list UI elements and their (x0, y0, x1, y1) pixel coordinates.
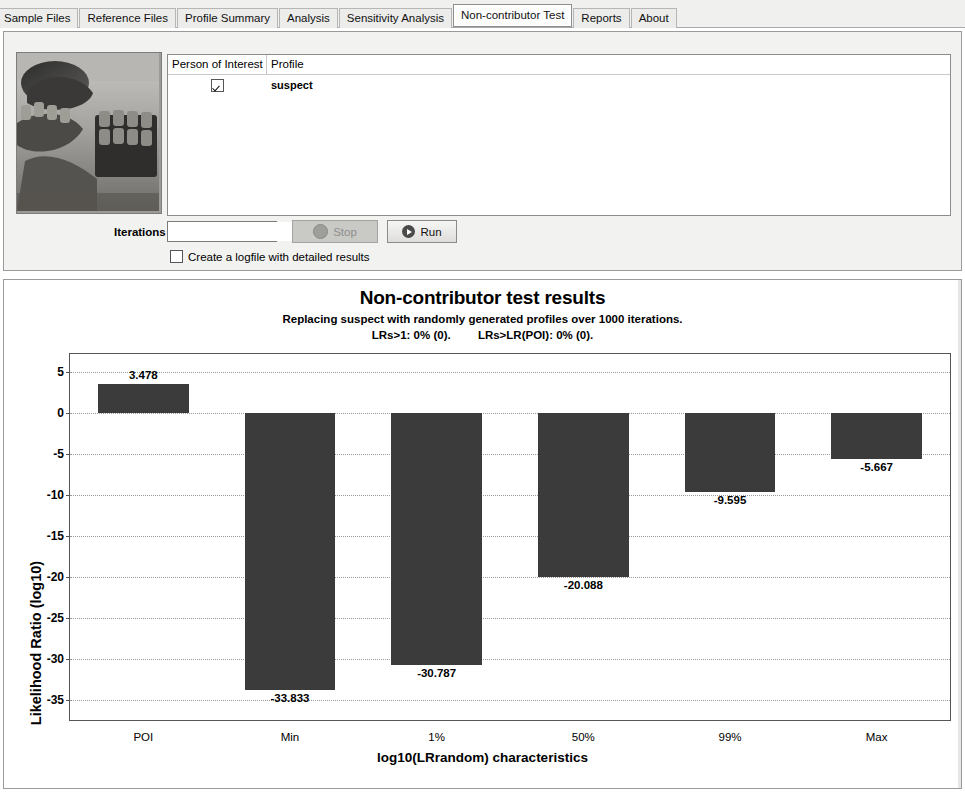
y-axis-label: Likelihood Ratio (log10) (28, 443, 44, 792)
iterations-stepper[interactable] (167, 221, 277, 242)
tab-sensitivity-analysis[interactable]: Sensitivity Analysis (339, 8, 452, 28)
chart-subtitle: Replacing suspect with randomly generate… (4, 313, 961, 325)
bar-value-label: -5.667 (801, 461, 952, 473)
y-tick-label: -25 (47, 611, 64, 625)
chart-title: Non-contributor test results (4, 287, 961, 309)
bar-50-[interactable] (538, 413, 629, 577)
bar-1-[interactable] (391, 413, 482, 665)
y-tick-label: -15 (47, 529, 64, 543)
lab-photo-svg (17, 53, 159, 211)
bar-value-label: -20.088 (508, 579, 659, 591)
bar-value-label: -9.595 (655, 494, 806, 506)
y-tick-mark (66, 536, 70, 537)
chart-panel: Non-contributor test results Replacing s… (3, 279, 962, 789)
y-tick-label: -10 (47, 488, 64, 502)
create-logfile-label: Create a logfile with detailed results (188, 251, 370, 263)
non-contributor-test-panel: Person of Interest Profile suspect Itera… (3, 31, 962, 271)
y-tick-label: 5 (57, 365, 64, 379)
table-row[interactable]: suspect (168, 75, 950, 95)
tab-reports[interactable]: Reports (573, 8, 629, 28)
chart-stats: LRs>1: 0% (0). LRs>LR(POI): 0% (0). (4, 329, 961, 341)
x-tick-label-min: Min (281, 731, 300, 743)
bar-max[interactable] (831, 413, 922, 459)
y-tick-mark (66, 454, 70, 455)
x-tick-label-1-: 1% (428, 731, 445, 743)
run-controls: Iterations Stop Run (4, 220, 961, 250)
run-button[interactable]: Run (387, 220, 457, 243)
stop-icon (313, 224, 328, 239)
tab-sample-files[interactable]: Sample Files (0, 8, 78, 28)
column-header-profile[interactable]: Profile (267, 55, 950, 74)
x-tick-label-50-: 50% (572, 731, 595, 743)
column-header-person-of-interest[interactable]: Person of Interest (168, 55, 267, 74)
y-tick-label: -30 (47, 652, 64, 666)
bar-value-label: -33.833 (215, 692, 366, 704)
play-icon (402, 225, 415, 238)
stop-button[interactable]: Stop (292, 220, 378, 243)
bar-poi[interactable] (98, 384, 189, 412)
y-tick-label: -20 (47, 570, 64, 584)
y-tick-mark (66, 577, 70, 578)
y-tick-mark (66, 618, 70, 619)
x-tick-label-max: Max (866, 731, 888, 743)
plot-area: 50-5-10-15-20-25-30-353.478POI-33.833Min… (69, 353, 951, 721)
person-of-interest-checkbox[interactable] (211, 79, 224, 92)
bar-min[interactable] (245, 413, 336, 690)
create-logfile-checkbox[interactable] (170, 250, 183, 263)
person-of-interest-table[interactable]: Person of Interest Profile suspect (167, 54, 951, 216)
gridline (70, 536, 950, 537)
table-header-row: Person of Interest Profile (168, 55, 950, 75)
gridline (70, 618, 950, 619)
y-tick-mark (66, 413, 70, 414)
y-tick-mark (66, 495, 70, 496)
gridline (70, 700, 950, 701)
x-axis-label: log10(LRrandom) characteristics (4, 750, 961, 765)
tab-non-contributor-test[interactable]: Non-contributor Test (453, 4, 572, 27)
stat-lrs-greater-than-1: LRs>1: 0% (0). (372, 329, 451, 341)
tab-bar: Sample FilesReference FilesProfile Summa… (0, 0, 965, 28)
iterations-label: Iterations (114, 226, 166, 238)
tab-reference-files[interactable]: Reference Files (79, 8, 176, 28)
y-tick-label: 0 (57, 406, 64, 420)
y-tick-label: -35 (47, 693, 64, 707)
gridline (70, 495, 950, 496)
stat-lrs-greater-than-poi: LRs>LR(POI): 0% (0). (478, 329, 593, 341)
tab-profile-summary[interactable]: Profile Summary (177, 8, 278, 28)
gridline (70, 454, 950, 455)
gridline (70, 577, 950, 578)
gridline (70, 413, 950, 414)
laboratory-photo-thumbnail (16, 52, 162, 214)
bar-value-label: 3.478 (68, 369, 219, 381)
y-tick-mark (66, 700, 70, 701)
tab-about[interactable]: About (631, 8, 677, 28)
run-button-label: Run (420, 226, 441, 238)
x-tick-label-poi: POI (133, 731, 153, 743)
tab-analysis[interactable]: Analysis (279, 8, 338, 28)
bar-value-label: -30.787 (361, 667, 512, 679)
stop-button-label: Stop (333, 226, 357, 238)
poi-cell (168, 79, 267, 92)
x-tick-label-99-: 99% (718, 731, 741, 743)
vertical-scrollbar[interactable] (958, 280, 961, 788)
profile-cell: suspect (267, 79, 950, 91)
gridline (70, 659, 950, 660)
y-tick-mark (66, 659, 70, 660)
logfile-option[interactable]: Create a logfile with detailed results (170, 250, 370, 263)
y-tick-label: -5 (53, 447, 64, 461)
bar-99-[interactable] (685, 413, 776, 492)
